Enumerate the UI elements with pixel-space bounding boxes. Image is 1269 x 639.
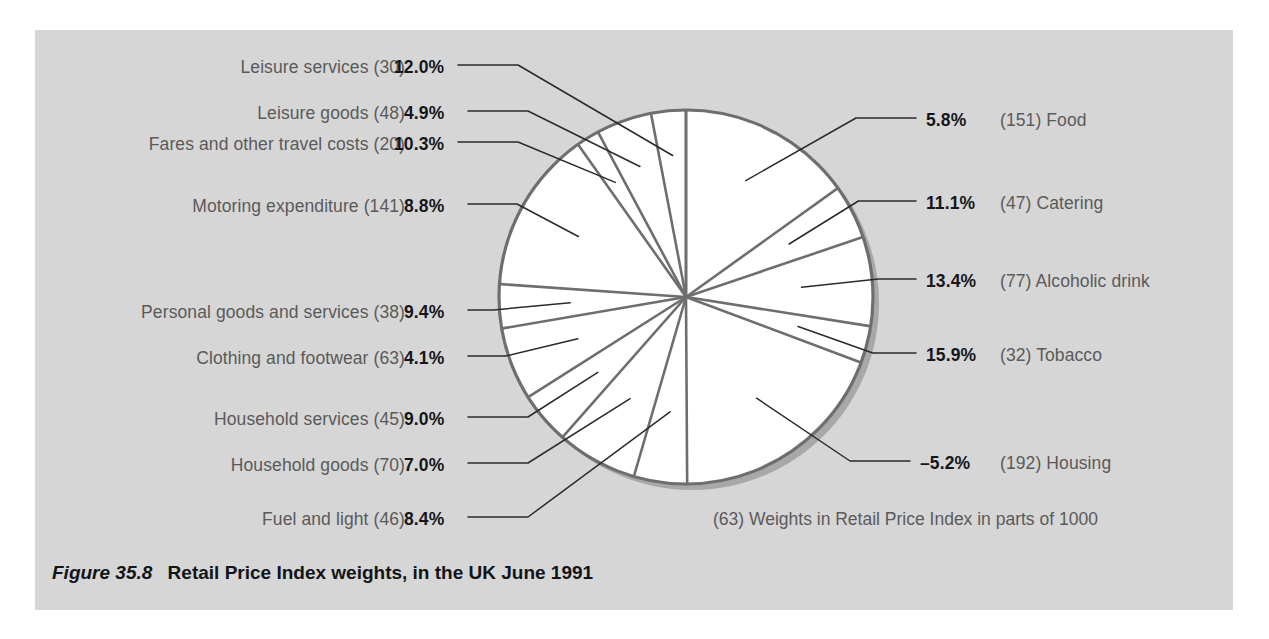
- percent-housing: –5.2%: [920, 453, 970, 474]
- figure-caption: Figure 35.8 Retail Price Index weights, …: [52, 562, 593, 584]
- percent-alcoholic-drink: 13.4%: [926, 271, 976, 292]
- percent-motoring-expenditure: 8.8%: [404, 196, 444, 217]
- label-leisure-goods: Leisure goods (48): [257, 103, 405, 124]
- label-personal-goods-services: Personal goods and services (38): [141, 302, 405, 323]
- label-motoring-expenditure: Motoring expenditure (141): [192, 196, 405, 217]
- percent-leisure-goods: 4.9%: [404, 103, 444, 124]
- percent-fares-travel-costs: 10.3%: [394, 134, 444, 155]
- label-housing: (192) Housing: [1000, 453, 1111, 474]
- percent-food: 5.8%: [926, 110, 966, 131]
- label-leisure-services: Leisure services (30): [240, 57, 405, 78]
- label-household-services: Household services (45): [214, 409, 405, 430]
- label-fuel-and-light: Fuel and light (46): [262, 509, 405, 530]
- percent-personal-goods-services: 9.4%: [404, 302, 444, 323]
- label-clothing-footwear: Clothing and footwear (63): [196, 348, 405, 369]
- percent-fuel-and-light: 8.4%: [404, 509, 444, 530]
- figure-container: Leisure services (30) 12.0% Leisure good…: [0, 0, 1269, 639]
- label-tobacco: (32) Tobacco: [1000, 345, 1102, 366]
- percent-catering: 11.1%: [926, 193, 975, 214]
- footnote-weights: (63) Weights in Retail Price Index in pa…: [713, 509, 1098, 530]
- figure-title: Retail Price Index weights, in the UK Ju…: [168, 562, 594, 583]
- label-food: (151) Food: [1000, 110, 1087, 131]
- label-household-goods: Household goods (70): [231, 455, 405, 476]
- percent-tobacco: 15.9%: [926, 345, 976, 366]
- figure-number: Figure 35.8: [52, 562, 152, 583]
- label-fares-travel-costs: Fares and other travel costs (20): [149, 134, 405, 155]
- percent-clothing-footwear: 4.1%: [404, 348, 444, 369]
- percent-household-services: 9.0%: [404, 409, 444, 430]
- label-alcoholic-drink: (77) Alcoholic drink: [1000, 271, 1150, 292]
- label-catering: (47) Catering: [1000, 193, 1103, 214]
- percent-leisure-services: 12.0%: [394, 57, 444, 78]
- percent-household-goods: 7.0%: [404, 455, 444, 476]
